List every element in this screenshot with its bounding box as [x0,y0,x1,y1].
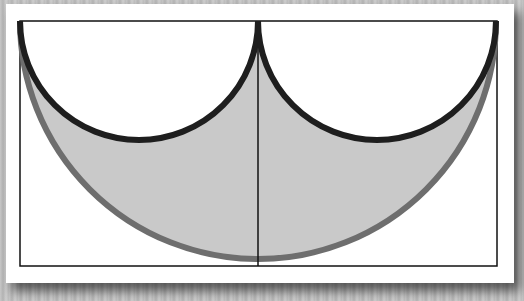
semicircle-diagram [0,0,524,301]
